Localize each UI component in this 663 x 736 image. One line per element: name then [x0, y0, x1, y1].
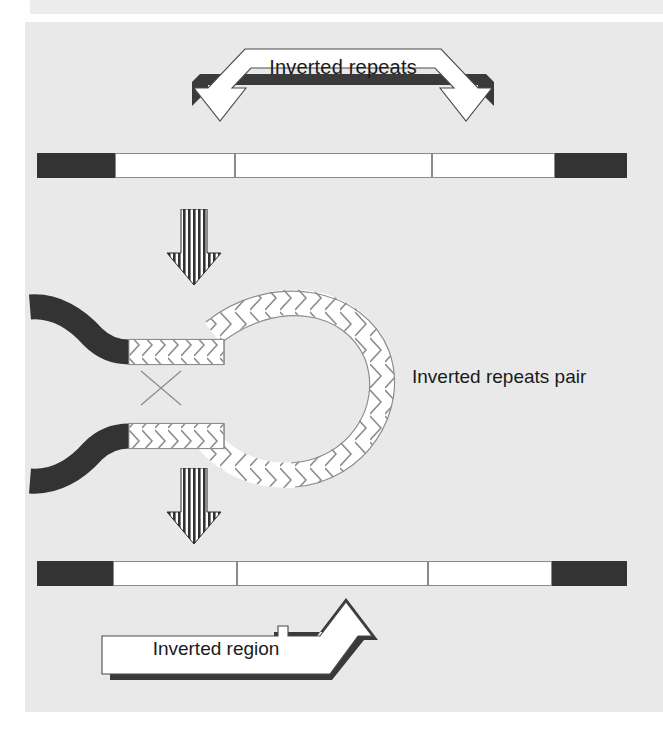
segment-repeat-a-inverted	[113, 561, 237, 586]
segment-right-flank	[555, 153, 627, 178]
segment-right-flank-inverted	[552, 561, 627, 586]
segment-repeat-b-inverted	[428, 561, 552, 586]
inverted-repeats-bracket: Inverted repeats	[148, 44, 538, 149]
segment-left-flank	[37, 153, 115, 178]
transition-arrow-2-down-icon	[163, 468, 225, 546]
inverted-repeats-label: Inverted repeats	[148, 56, 538, 79]
segment-left-flank-inverted	[37, 561, 113, 586]
segment-inverted-spacer	[237, 561, 428, 586]
crossover-x-icon	[138, 368, 184, 408]
segment-repeat-a	[115, 153, 235, 178]
inverted-region-callout: Inverted region	[88, 596, 388, 694]
page-top-strip	[30, 0, 663, 14]
segment-repeat-b	[432, 153, 555, 178]
dna-bar-stage-3	[37, 561, 627, 586]
transition-arrow-1-down-icon	[163, 209, 225, 287]
inverted-region-label: Inverted region	[116, 638, 316, 660]
segment-spacer-right	[235, 153, 432, 178]
dna-bar-stage-1	[37, 153, 627, 178]
inverted-repeats-pair-label: Inverted repeats pair	[412, 366, 586, 388]
